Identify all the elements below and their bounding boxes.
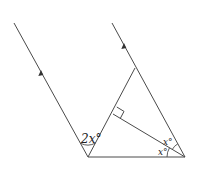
right-arrow-icon — [121, 43, 126, 49]
angle-arc-x-upper — [172, 144, 178, 150]
angle-label-x-upper: x° — [163, 137, 173, 147]
angle-label-x-lower: x° — [158, 147, 168, 157]
left-parallel-line — [14, 23, 88, 157]
left-arrow-icon — [38, 70, 43, 76]
geometry-diagram: 2x° x° x° — [0, 0, 199, 170]
angle-label-2x: 2x° — [80, 132, 101, 146]
perpendicular-segment — [113, 114, 185, 157]
